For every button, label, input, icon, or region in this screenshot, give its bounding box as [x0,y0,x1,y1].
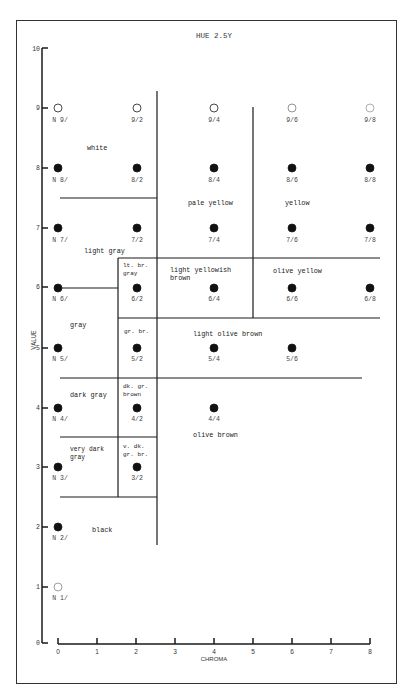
x-tick-label: 0 [56,648,60,655]
point-n3 [54,463,62,471]
y-tick-label: 3 [36,464,40,471]
region-label-dk-gr-brown-2: brown [123,391,141,398]
x-axis-label: CHROMA [201,656,228,662]
point-label: 7/2 [131,237,143,244]
region-label-lt-br-gray-2: gray [123,270,138,277]
chart-title: HUE 2.5Y [196,32,233,40]
point-6-2 [133,284,141,292]
y-axis-label: VALUE [31,330,38,350]
point-5-6 [288,344,296,352]
point-7-4 [210,224,218,232]
point-n2 [54,523,62,531]
point-n1 [54,583,62,591]
point-n8 [54,164,62,172]
point-6-8 [366,284,374,292]
region-label-pale-yellow: pale yellow [188,199,234,207]
y-tick-label: 10 [32,46,40,53]
region-label-olive-yellow: olive yellow [273,267,323,275]
x-tick-label: 4 [212,648,216,655]
region-label-v-dk-gr-br: v. dk. [123,443,145,450]
point-label: N 6/ [52,296,68,303]
point-8-2 [133,164,141,172]
point-label: 8/4 [208,177,220,184]
point-label: 3/2 [131,475,143,482]
y-axis [42,48,48,643]
point-label: 9/8 [364,117,376,124]
point-5-2 [133,344,141,352]
region-label-v-dk-gr-br-2: gr. br. [123,451,148,458]
point-label: 9/2 [131,117,143,124]
point-label: 6/2 [131,296,143,303]
point-3-2 [133,463,141,471]
point-label: 8/6 [286,177,298,184]
y-tick-label: 7 [36,225,40,232]
region-label-light-gray: light gray [84,247,125,255]
point-label: 4/2 [131,416,143,423]
point-label: 7/6 [286,237,298,244]
point-label: 4/4 [208,416,220,423]
region-label-yellow: yellow [285,199,310,207]
y-tick-label: 4 [36,405,40,412]
point-label: N 3/ [52,475,68,482]
point-4-2 [133,404,141,412]
point-label: N 9/ [52,117,68,124]
point-label: 6/6 [286,296,298,303]
region-label-white: white [87,144,107,152]
point-label: 7/8 [364,237,376,244]
point-9-2 [133,104,141,112]
munsell-chart: HUE 2.5Y 10 9 8 7 6 5 4 3 2 1 [0,0,414,697]
point-label: 9/4 [208,117,220,124]
point-label: N 7/ [52,237,68,244]
x-axis [58,638,370,644]
point-8-4 [210,164,218,172]
point-n4 [54,404,62,412]
region-labels: white pale yellow yellow light gray lt. … [70,144,323,534]
point-9-8 [366,104,374,112]
point-label: 8/2 [131,177,143,184]
point-label: 9/6 [286,117,298,124]
point-5-4 [210,344,218,352]
point-7-8 [366,224,374,232]
region-label-gray: gray [70,321,86,329]
region-label-very-dark-gray: very dark [70,446,104,453]
point-label: 5/2 [131,356,143,363]
x-tick-label: 8 [368,648,372,655]
region-label-light-yellowish-brown-2: brown [170,274,190,282]
y-tick-label: 6 [36,284,40,291]
y-tick-label: 2 [36,524,40,531]
region-label-very-dark-gray-2: gray [70,454,85,461]
point-4-4 [210,404,218,412]
point-7-2 [133,224,141,232]
region-label-light-yellowish-brown: light yellowish [170,266,231,274]
x-tick-label: 6 [290,648,294,655]
point-label: 6/8 [364,296,376,303]
x-tick-labels: 0 1 2 3 4 5 6 7 8 [56,648,372,655]
x-tick-label: 1 [95,648,99,655]
point-label: N 5/ [52,356,68,363]
point-9-6 [288,104,296,112]
region-label-lt-br-gray: lt. br. [123,262,148,269]
point-label: N 8/ [52,177,68,184]
point-9-4 [210,104,218,112]
point-n7 [54,224,62,232]
point-n9 [54,104,62,112]
region-label-light-olive-brown: light olive brown [193,330,262,338]
point-n5 [54,344,62,352]
point-label: 5/4 [208,356,220,363]
x-tick-label: 7 [329,648,333,655]
point-8-8 [366,164,374,172]
region-boundaries [58,91,380,545]
y-tick-label: 1 [36,584,40,591]
x-tick-label: 2 [134,648,138,655]
point-label: 7/4 [208,237,220,244]
point-7-6 [288,224,296,232]
x-tick-label: 5 [251,648,255,655]
y-tick-label: 8 [36,165,40,172]
point-label: N 1/ [52,595,68,602]
point-label: 6/4 [208,296,220,303]
point-n6 [54,284,62,292]
region-label-dk-gr-brown: dk. gr. [123,383,148,390]
region-label-olive-brown: olive brown [193,431,238,439]
region-label-gr-br: gr. br. [124,328,149,335]
point-label: 5/6 [286,356,298,363]
